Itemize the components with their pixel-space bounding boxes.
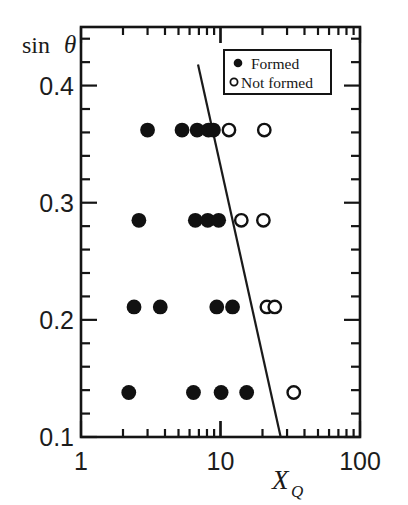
data-point-formed (153, 300, 168, 315)
x-tick-label: 1 (74, 447, 88, 475)
open-circle-icon (230, 78, 237, 85)
legend: Formed Not formed (224, 50, 331, 94)
y-tick-label: 0.1 (39, 423, 74, 451)
data-point-not-formed (223, 124, 235, 136)
data-point-formed (131, 213, 146, 228)
y-tick-label: 0.4 (39, 72, 74, 100)
data-point-not-formed (288, 386, 300, 398)
scatter-plot-figure: 110100 0.10.20.30.4 sin θ X Q Formed Not… (0, 0, 408, 505)
data-point-formed (225, 300, 240, 315)
x-tick-label: 10 (207, 447, 235, 475)
data-point-formed (186, 385, 201, 400)
x-axis-title-subscript: Q (291, 482, 303, 501)
filled-circle-icon (234, 59, 243, 68)
data-point-formed (211, 213, 226, 228)
data-point-not-formed (258, 124, 270, 136)
y-axis-title-fn: sin (22, 32, 50, 58)
y-axis-title: sin θ (22, 31, 76, 58)
x-axis-title-base: X (271, 465, 290, 495)
data-point-formed (140, 123, 155, 138)
chart-svg: 110100 0.10.20.30.4 sin θ X Q Formed Not… (0, 0, 408, 505)
data-point-formed (214, 385, 229, 400)
data-point-formed (206, 123, 221, 138)
data-point-formed (121, 385, 136, 400)
x-tick-label: 100 (339, 447, 381, 475)
data-point-formed (175, 123, 190, 138)
legend-entry-not-formed: Not formed (230, 74, 313, 91)
y-axis-title-symbol: θ (64, 31, 76, 58)
y-tick-label: 0.2 (39, 306, 74, 334)
data-point-not-formed (269, 301, 281, 313)
data-point-formed (239, 385, 254, 400)
data-point-not-formed (257, 214, 269, 226)
y-tick-label: 0.3 (39, 189, 74, 217)
data-point-not-formed (235, 214, 247, 226)
legend-label-not-formed: Not formed (241, 74, 313, 91)
data-point-formed (127, 300, 142, 315)
legend-label-formed: Formed (251, 55, 299, 72)
data-point-formed (209, 300, 224, 315)
